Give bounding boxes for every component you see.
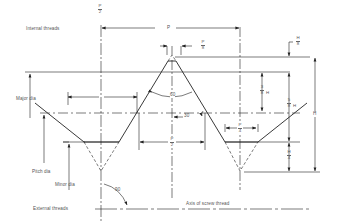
thread-profile [35, 61, 307, 142]
frac-den: 8 [287, 104, 291, 108]
frac-num: H [296, 36, 300, 40]
frac-den: 8 [260, 91, 264, 95]
frac-num: P [201, 40, 205, 44]
frac-den: 2 [170, 143, 174, 147]
frac-num: P [238, 123, 242, 127]
frac-num: P [170, 137, 174, 141]
frac-den: 8 [296, 42, 300, 46]
dim-p-over-2-top: P 2 [98, 4, 102, 15]
frac-den: 2 [98, 10, 102, 14]
dim-h-over-4: H 4 [287, 150, 291, 161]
fundamental-triangle-right [225, 142, 258, 171]
dim-five-eighths-h-suffix: H [293, 103, 296, 108]
dim-h-label: H [313, 112, 316, 117]
frac-num: 5 [287, 98, 291, 102]
frac-num: P [98, 4, 102, 8]
dim-p-over-4: P 4 [238, 123, 242, 134]
angle-30: 30 [184, 114, 189, 119]
label-internal-threads: Internal threads [26, 27, 60, 32]
thread-profile-diagram [0, 0, 337, 224]
angle-90: 90 [115, 188, 120, 193]
dim-p-over-8: P 8 [201, 40, 205, 51]
label-major-dia: Major dia [16, 97, 36, 102]
dim-three-eighths-h: 3 8 [260, 85, 264, 96]
angle-60: 60 [170, 93, 175, 98]
frac-den: 4 [238, 129, 242, 133]
dim-three-eighths-h-suffix: H [266, 90, 269, 95]
label-external-threads: External threads [33, 207, 68, 212]
dim-p-label: P [167, 26, 170, 31]
label-axis: Axis of screw thread [186, 202, 229, 207]
frac-den: 8 [201, 46, 205, 50]
frac-num: H [287, 150, 291, 154]
dim-p-over-2-mid: P 2 [170, 137, 174, 148]
dim-five-eighths-h: 5 8 [287, 98, 291, 109]
fundamental-triangle-left [84, 142, 119, 171]
frac-den: 4 [287, 156, 291, 160]
dim-h-over-8: H 8 [296, 36, 300, 47]
frac-num: 3 [260, 85, 264, 89]
label-pitch-dia: Pitch dia [32, 170, 51, 175]
label-minor-dia: Minor dia [55, 183, 75, 188]
